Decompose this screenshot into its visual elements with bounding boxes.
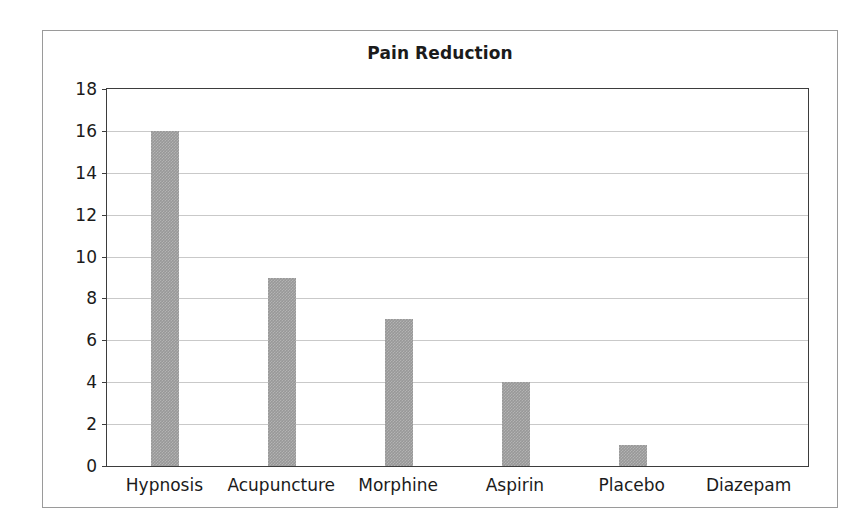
x-axis-category-label: Placebo [599,475,665,495]
bar-slot [691,89,808,466]
x-axis-category-label: Diazepam [706,475,791,495]
y-axis-tick-label: 4 [86,372,97,392]
y-axis-tick-label: 6 [86,330,97,350]
bar [268,278,296,467]
y-axis-tick-label: 18 [75,79,97,99]
y-axis-tick-label: 16 [75,121,97,141]
chart-title: Pain Reduction [43,43,837,63]
y-axis-tick [102,466,107,467]
x-axis-category-label: Aspirin [486,475,545,495]
bar [619,445,647,466]
bar-slot [341,89,458,466]
x-axis-category-label: Hypnosis [126,475,203,495]
x-axis-category-label: Morphine [358,475,438,495]
x-axis-category-label: Acupuncture [227,475,335,495]
y-axis-tick-label: 8 [86,288,97,308]
bar [385,319,413,466]
bar-slot [107,89,224,466]
bar-slot [458,89,575,466]
bar-series [107,89,808,466]
y-axis-tick-label: 2 [86,414,97,434]
y-axis-tick-label: 10 [75,247,97,267]
bar-slot [224,89,341,466]
chart-figure-frame: Pain Reduction 024681012141618 HypnosisA… [42,30,838,508]
bar [502,382,530,466]
y-axis-tick-label: 12 [75,205,97,225]
bar-slot [574,89,691,466]
y-axis-tick-label: 0 [86,456,97,476]
plot-area: 024681012141618 [106,88,809,467]
x-axis-labels: HypnosisAcupunctureMorphineAspirinPlaceb… [106,475,809,505]
y-axis-tick-label: 14 [75,163,97,183]
bar [151,131,179,466]
